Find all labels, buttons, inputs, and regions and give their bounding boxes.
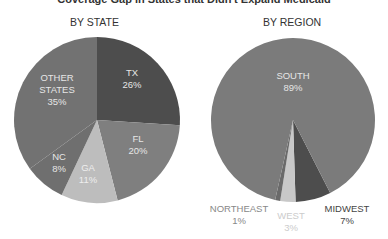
slice-label: NORTHEAST1%: [210, 203, 269, 226]
pie-by-state: TX26%FL20%GA11%NC8%OTHERSTATES35%: [14, 37, 180, 203]
slice-label: MIDWEST7%: [325, 203, 370, 226]
pie-by-region: MIDWEST7%WEST3%NORTHEAST1%SOUTH89%: [210, 38, 375, 233]
slice-label: NC8%: [52, 151, 66, 174]
pie-charts: TX26%FL20%GA11%NC8%OTHERSTATES35%MIDWEST…: [0, 0, 388, 239]
slice-label: WEST3%: [277, 210, 305, 233]
